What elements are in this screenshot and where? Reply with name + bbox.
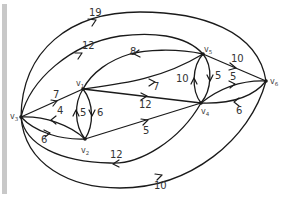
weight-label: 5 [143, 125, 149, 136]
node-label-v3: v3 [10, 112, 19, 122]
node-label-v5: v5 [204, 45, 213, 55]
arrow-icon [51, 116, 56, 124]
weight-label: 4 [57, 105, 63, 116]
weight-label: 7 [153, 81, 159, 92]
weight-label: 12 [82, 40, 95, 51]
weight-label: 10 [231, 53, 244, 64]
node-v3 [19, 115, 23, 119]
weight-label: 19 [89, 7, 102, 18]
weight-label: 6 [236, 105, 242, 116]
weight-label: 12 [110, 149, 123, 160]
graph-diagram: v1 v2 v3 v4 v5 v6 19 12 8 7 4 6 5 6 7 12… [0, 0, 290, 198]
node-label-v4: v4 [201, 107, 210, 117]
arrow-icon [75, 53, 82, 59]
weight-label: 10 [154, 180, 167, 191]
edge-v4-v5-10 [194, 54, 203, 103]
node-v4 [199, 101, 203, 105]
node-label-v2: v2 [81, 146, 89, 156]
weight-label: 7 [53, 89, 59, 100]
edge-v3-v2-6 [21, 117, 85, 139]
weight-label: 6 [97, 107, 103, 118]
weight-label: 5 [215, 70, 221, 81]
weight-label: 10 [176, 73, 189, 84]
weight-label: 8 [130, 46, 136, 57]
weight-label: 5 [230, 71, 236, 82]
edge-v6-v4-6 [201, 81, 266, 103]
node-label-v6: v6 [270, 77, 279, 87]
node-label-v1: v1 [76, 79, 84, 89]
weight-label: 12 [139, 99, 152, 110]
weight-label: 5 [80, 107, 86, 118]
weight-label: 6 [41, 134, 47, 145]
node-v6 [264, 79, 268, 83]
node-v2 [83, 137, 87, 141]
